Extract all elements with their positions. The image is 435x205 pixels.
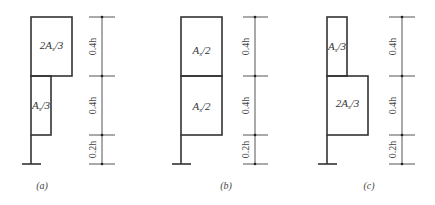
panel-c-bottom-label: 2As/3 [336,97,360,111]
panel-b-caption: (b) [220,180,232,192]
panel-c-dim-1: 0.4h [387,38,398,56]
panel-c-dimension-line: 0.4h 0.4h 0.2h [387,16,415,166]
panel-a-caption: (a) [36,180,48,192]
reinforcement-distribution-diagram: 2As/3 As/3 0.4h 0.4h 0.2h (a) As/2 As/2 [0,0,435,205]
panel-c: As/3 2As/3 0.4h 0.4h 0.2h (c) [318,16,415,192]
panel-b-bottom-label: As/2 [191,100,211,114]
panel-a-top-label: 2As/3 [40,39,64,53]
panel-a: 2As/3 As/3 0.4h 0.4h 0.2h (a) [22,16,115,192]
panel-a-dim-1: 0.4h [87,38,98,56]
panel-a-bottom-label: As/3 [31,99,51,113]
panel-b: As/2 As/2 0.4h 0.4h 0.2h (b) [172,16,268,192]
panel-a-dim-2: 0.4h [87,97,98,115]
panel-b-dimension-line: 0.4h 0.4h 0.2h [240,16,268,166]
panel-b-top-label: As/2 [191,44,211,58]
panel-b-dim-2: 0.4h [240,97,251,115]
panel-b-dim-1: 0.4h [240,38,251,56]
panel-c-top-label: As/3 [327,40,347,54]
panel-c-caption: (c) [363,180,375,192]
panel-b-dim-3: 0.2h [240,141,251,159]
panel-a-dim-3: 0.2h [87,141,98,159]
panel-c-dim-2: 0.4h [387,97,398,115]
panel-c-dim-3: 0.2h [387,141,398,159]
panel-a-dimension-line: 0.4h 0.4h 0.2h [87,16,115,166]
